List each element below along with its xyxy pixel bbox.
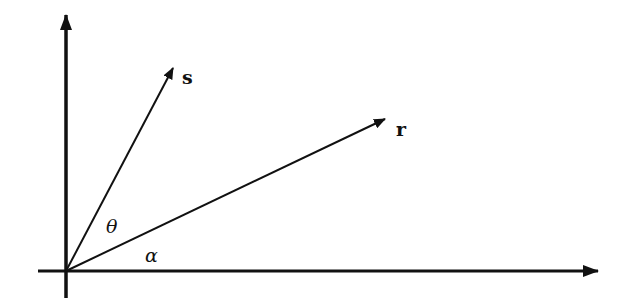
angle-theta-label: θ xyxy=(106,215,118,237)
vector-s xyxy=(66,68,173,271)
vector-s-label: s xyxy=(182,66,193,88)
vector-r xyxy=(66,119,385,271)
diagram-canvas: s r θ α xyxy=(0,0,622,307)
angle-alpha-label: α xyxy=(145,244,158,266)
vector-r-label: r xyxy=(396,118,407,140)
vector-diagram: s r θ α xyxy=(0,0,622,307)
